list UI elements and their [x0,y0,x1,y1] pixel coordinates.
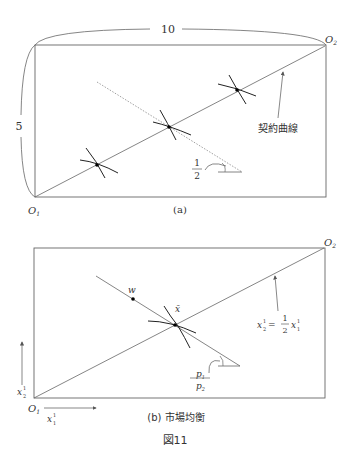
svg-text:1: 1 [297,326,300,332]
edgeworth-box-figure: 10 5 1 2 契約曲線 [0,0,349,450]
svg-text:1: 1 [263,318,266,324]
svg-text:x: x [257,320,262,330]
price-ratio-label: p1 p2 [190,369,210,392]
svg-text:=: = [268,320,276,330]
height-label: 5 [16,120,23,133]
svg-text:1: 1 [53,420,56,426]
svg-text:2: 2 [263,326,266,332]
tangency-point-1 [80,148,118,178]
panel-a: 10 5 1 2 契約曲線 [16,23,338,217]
svg-text:1: 1 [297,318,300,324]
tangency-point-2 [153,110,191,140]
angle-arc [222,163,225,172]
contract-line-equation: x 1 2 = 1 2 x 1 1 [257,314,300,335]
svg-text:1: 1 [23,385,26,391]
figure-caption: 図11 [163,434,188,447]
slope-denominator: 2 [194,171,200,181]
equation-arrow [275,276,278,311]
budget-line [96,276,240,366]
contract-curve [35,46,325,197]
origin-o1-b: O1 [28,403,40,415]
svg-text:x: x [291,320,296,330]
endowment-point [131,297,135,301]
slope-pointer [205,164,226,170]
width-brace-right [182,29,326,45]
angle-arc-b [220,356,223,366]
svg-text:p2: p2 [196,381,205,392]
svg-text:2: 2 [23,393,26,399]
y-axis-label: x 1 2 [17,385,26,399]
origin-o2-b: O2 [324,237,336,249]
svg-text:1: 1 [282,314,287,323]
width-brace [35,29,150,45]
contract-curve-arrow [278,72,283,118]
svg-text:x: x [47,414,52,424]
panel-a-caption: (a) [173,204,187,215]
price-pointer [209,361,220,374]
panel-b: w x̄ x 1 2 = 1 2 x 1 1 p1 p2 [17,237,336,426]
origin-o2-a: O2 [325,34,337,46]
height-brace-top [21,45,35,115]
origin-o1-a: O1 [28,205,40,217]
width-label: 10 [161,23,175,36]
svg-text:p1: p1 [196,369,205,380]
x-axis-label: x 1 1 [47,412,56,426]
svg-text:2: 2 [282,326,287,335]
slope-numerator: 1 [194,158,200,168]
panel-b-caption: (b) 市場均衡 [147,411,204,423]
endowment-label: w [128,285,136,295]
svg-text:x: x [17,387,22,397]
svg-text:1: 1 [53,412,56,418]
height-brace-bottom [21,137,35,197]
equilibrium-label: x̄ [175,304,180,314]
tangency-point-3 [218,75,256,104]
contract-curve-label: 契約曲線 [258,122,298,134]
contract-line-b [34,248,324,398]
